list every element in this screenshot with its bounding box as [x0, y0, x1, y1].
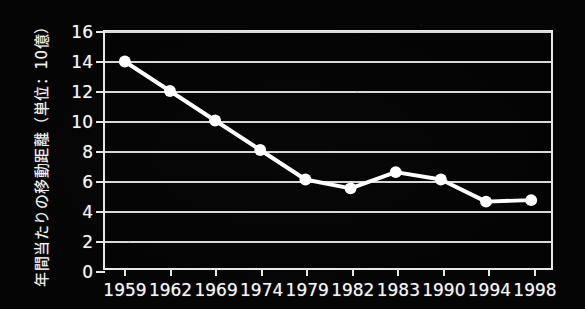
data-point — [254, 144, 266, 156]
y-axis-tick-label: 4 — [82, 202, 93, 222]
y-axis-tick-label: 12 — [71, 82, 93, 102]
data-point — [390, 166, 402, 178]
x-axis-tick — [306, 268, 308, 276]
y-axis-tick — [96, 61, 105, 63]
x-axis-tick — [534, 268, 536, 276]
y-axis-tick-label: 16 — [71, 22, 93, 42]
line-series — [105, 32, 551, 268]
x-axis-tick-label: 1982 — [331, 280, 374, 300]
data-point — [209, 115, 221, 127]
y-axis-tick-label: 0 — [82, 262, 93, 282]
y-axis-tick-label: 14 — [71, 52, 93, 72]
y-axis-title: 年間当たりの移動距離（単位：10億） — [22, 0, 58, 305]
chart-screenshot: 年間当たりの移動距離（単位：10億） 0246810121416 1959196… — [0, 0, 585, 309]
y-axis-tick-label: 8 — [82, 142, 93, 162]
y-axis-tick — [96, 31, 105, 33]
data-point — [435, 174, 447, 186]
x-axis-tick-label: 1983 — [377, 280, 420, 300]
data-point — [164, 85, 176, 97]
x-axis-tick — [397, 268, 399, 276]
data-point — [525, 194, 537, 206]
x-axis-tick-label: 1994 — [468, 280, 511, 300]
data-point — [345, 182, 357, 194]
series-line — [125, 62, 531, 202]
x-axis-tick — [261, 268, 263, 276]
x-axis-tick-label: 1959 — [103, 280, 146, 300]
y-axis-title-text: 年間当たりの移動距離（単位：10億） — [30, 18, 51, 286]
y-axis-tick — [96, 91, 105, 93]
x-axis-tick-label: 1990 — [422, 280, 465, 300]
y-axis-tick — [96, 181, 105, 183]
x-axis-tick-label: 1979 — [286, 280, 329, 300]
data-point — [480, 196, 492, 208]
x-axis-tick — [443, 268, 445, 276]
data-point — [119, 56, 131, 68]
x-axis-tick-label: 1969 — [194, 280, 237, 300]
data-point — [299, 174, 311, 186]
y-axis-tick-label: 10 — [71, 112, 93, 132]
x-axis-tick — [124, 268, 126, 276]
x-axis-tick — [215, 268, 217, 276]
x-axis-tick-label: 1998 — [513, 280, 556, 300]
plot-area: 0246810121416 19591962196919741979198219… — [103, 30, 553, 270]
x-axis-tick — [352, 268, 354, 276]
x-axis-tick-label: 1974 — [240, 280, 283, 300]
y-axis-tick — [96, 271, 105, 273]
x-axis-tick-label: 1962 — [149, 280, 192, 300]
y-axis-tick — [96, 241, 105, 243]
y-axis-tick — [96, 151, 105, 153]
y-axis-tick — [96, 121, 105, 123]
x-axis-tick — [170, 268, 172, 276]
y-axis-tick — [96, 211, 105, 213]
y-axis-tick-label: 2 — [82, 232, 93, 252]
x-axis-tick — [488, 268, 490, 276]
y-axis-tick-label: 6 — [82, 172, 93, 192]
